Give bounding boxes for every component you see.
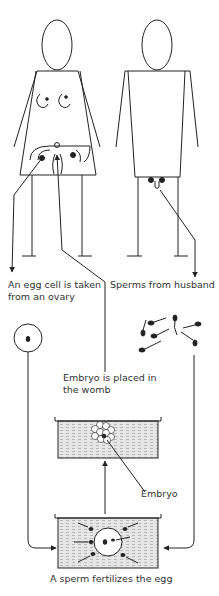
embryo-placed-line1: Embryo is placed in bbox=[63, 372, 157, 384]
egg-to-dish-arrow bbox=[28, 352, 56, 548]
fertilizes-label: A sperm fertilizes the egg bbox=[50, 573, 172, 585]
man-figure bbox=[116, 20, 198, 256]
sperms-label: Sperms from husband bbox=[110, 279, 215, 291]
egg-cell-icon bbox=[14, 324, 42, 352]
sperm-to-dish-arrow bbox=[164, 355, 194, 548]
embryo-placed-line2: the womb bbox=[63, 384, 157, 396]
sperm-cells-icon bbox=[139, 315, 201, 352]
egg-taken-line2: from an ovary bbox=[8, 291, 101, 303]
return-to-womb-arrow bbox=[57, 155, 105, 372]
egg-taken-line1: An egg cell is taken bbox=[8, 279, 101, 291]
embryo-culture-dish bbox=[55, 417, 161, 458]
fertilization-dish bbox=[55, 514, 161, 568]
woman-head bbox=[42, 20, 72, 70]
embryo-label: Embryo bbox=[141, 488, 178, 500]
egg-in-dish-icon bbox=[94, 528, 122, 556]
man-head bbox=[142, 20, 172, 70]
woman-figure bbox=[14, 20, 100, 256]
egg-taken-label: An egg cell is taken from an ovary bbox=[8, 279, 101, 303]
embryo-placed-label: Embryo is placed in the womb bbox=[63, 372, 157, 396]
